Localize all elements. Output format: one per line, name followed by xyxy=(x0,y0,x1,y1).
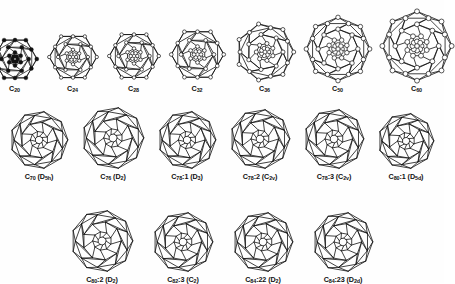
fullerene-cage-c80-2-d2- xyxy=(68,207,136,275)
fullerene-cell: C50 xyxy=(303,14,373,92)
fullerene-cage-c78-3-c2v- xyxy=(301,106,367,172)
cage-label: C28 xyxy=(128,85,139,92)
cage-label: C60 xyxy=(411,85,422,92)
fullerene-cage-c78-2-c2v- xyxy=(227,106,293,172)
fullerene-cage-c50 xyxy=(303,14,373,84)
fullerene-cell: C76 (D2) xyxy=(79,104,147,180)
fullerene-cell: C78:2 (C2v) xyxy=(227,106,293,180)
cage-label: C80:2 (D2) xyxy=(86,276,118,283)
fullerene-cell: C84:22 (D2) xyxy=(230,209,296,283)
fullerene-cell: C60 xyxy=(379,8,455,92)
fullerene-cell: C20 xyxy=(0,34,40,92)
fullerene-cell: C80:1 (D5d) xyxy=(375,110,437,180)
cage-label: C84:22 (D2) xyxy=(245,276,280,283)
cage-label: C78:3 (C2v) xyxy=(317,173,351,180)
fullerene-cage-c32 xyxy=(168,25,227,84)
fullerene-cell: C28 xyxy=(106,28,162,92)
fullerene-cell: C36 xyxy=(233,20,297,92)
fullerene-cage-c24 xyxy=(46,30,100,84)
cage-label: C80:1 (D5d) xyxy=(389,173,424,180)
cage-label: C84:23 (D2d) xyxy=(324,276,363,283)
fullerene-cage-c36 xyxy=(233,20,297,84)
fullerene-cage-c80-1-d5d- xyxy=(375,110,437,172)
fullerene-cell: C24 xyxy=(46,30,100,92)
fullerene-cell: C78:1 (D3) xyxy=(155,108,219,180)
fullerene-cell: C82:3 (C2) xyxy=(150,209,216,283)
cage-label: C50 xyxy=(332,85,343,92)
cage-label: C24 xyxy=(67,85,78,92)
fullerene-cell: C84:23 (D2d) xyxy=(310,209,376,283)
fullerene-cage-c76-d2- xyxy=(79,104,147,172)
fullerene-cell: C78:3 (C2v) xyxy=(301,106,367,180)
cage-label: C76 (D2) xyxy=(100,173,125,180)
fullerene-cell: C70 (D5h) xyxy=(7,108,71,180)
fullerene-cage-c60 xyxy=(379,8,455,84)
cage-label: C82:3 (C2) xyxy=(167,276,199,283)
fullerene-cell: C80:2 (D2) xyxy=(68,207,136,283)
cage-label: C20 xyxy=(9,85,20,92)
cage-label: C36 xyxy=(259,85,270,92)
fullerene-cage-c70-d5h- xyxy=(7,108,71,172)
cage-label: C78:1 (D3) xyxy=(171,173,203,180)
fullerene-row-2: C70 (D5h)C76 (D2)C78:1 (D3)C78:2 (C2v)C7… xyxy=(0,92,444,180)
fullerene-row-3: C80:2 (D2)C82:3 (C2)C84:22 (D2)C84:23 (D… xyxy=(0,180,444,283)
fullerene-cage-c84-22-d2- xyxy=(230,209,296,275)
fullerene-cage-c20 xyxy=(0,34,40,84)
fullerene-row-1: C20C24C28C32C36C50C60 xyxy=(0,0,444,92)
fullerene-cage-c82-3-c2- xyxy=(150,209,216,275)
cage-label: C78:2 (C2v) xyxy=(243,173,277,180)
cage-label: C32 xyxy=(192,85,203,92)
fullerene-cell: C32 xyxy=(168,25,227,92)
cage-label: C70 (D5h) xyxy=(25,173,54,180)
fullerene-cage-c28 xyxy=(106,28,162,84)
fullerene-cage-c78-1-d3- xyxy=(155,108,219,172)
fullerene-cage-c84-23-d2d- xyxy=(310,209,376,275)
